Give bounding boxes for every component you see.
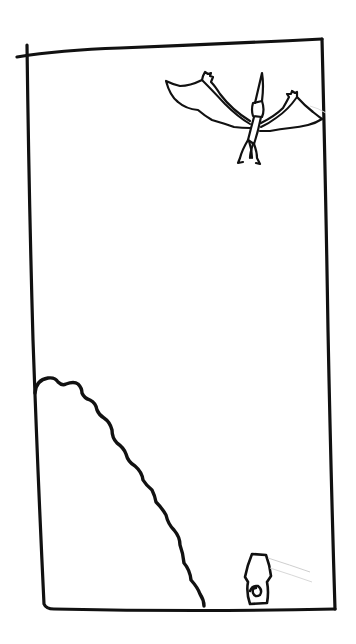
lantern-icon	[245, 554, 312, 604]
hill-icon	[35, 378, 204, 606]
sketch-canvas	[0, 0, 356, 644]
pterodactyl-icon	[166, 72, 326, 164]
frame-border	[17, 39, 335, 611]
